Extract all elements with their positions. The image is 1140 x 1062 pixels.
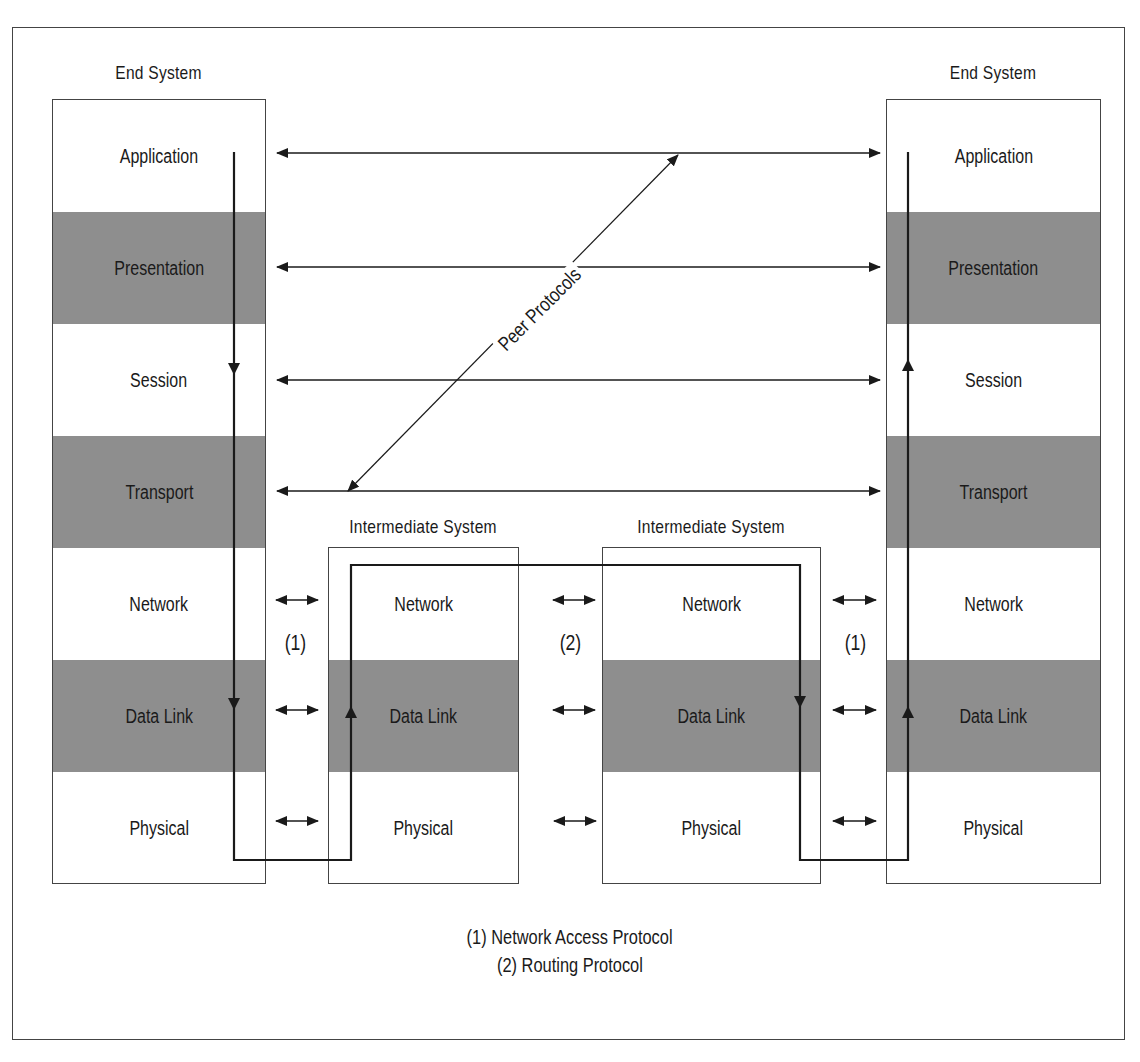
layer-label: Application: [120, 145, 198, 168]
link-marker-1-right: (1): [845, 630, 867, 656]
layer-label: Physical: [682, 817, 742, 840]
layer-label: Transport: [125, 481, 193, 504]
end-system-right-stack: Application Presentation Session Transpo…: [886, 99, 1101, 884]
layer-label: Physical: [129, 817, 189, 840]
legend: (1) Network Access Protocol: [0, 926, 1140, 949]
layer-label: Data Link: [960, 705, 1028, 728]
layer-label: Network: [394, 593, 453, 616]
layer-label: Network: [130, 593, 189, 616]
layer-label: Physical: [394, 817, 454, 840]
layer-label: Transport: [960, 481, 1028, 504]
intermediate-system-2-stack: Network Data Link Physical: [602, 547, 821, 884]
layer-network: Network: [53, 548, 265, 660]
end-system-right-title: End System: [905, 62, 1080, 84]
layer-label: Data Link: [678, 705, 746, 728]
layer-physical: Physical: [53, 772, 265, 884]
layer-session: Session: [887, 324, 1100, 436]
link-marker-1-left: (1): [285, 630, 307, 656]
layer-application: Application: [887, 100, 1100, 212]
layer-data-link: Data Link: [887, 660, 1100, 772]
layer-data-link: Data Link: [53, 660, 265, 772]
layer-presentation: Presentation: [53, 212, 265, 324]
legend-item-network-access: (1) Network Access Protocol: [467, 926, 673, 949]
layer-transport: Transport: [53, 436, 265, 548]
layer-network: Network: [329, 548, 518, 660]
layer-physical: Physical: [603, 772, 820, 884]
intermediate-system-1-title: Intermediate System: [337, 516, 509, 538]
layer-physical: Physical: [887, 772, 1100, 884]
layer-label: Physical: [964, 817, 1024, 840]
layer-label: Network: [682, 593, 741, 616]
layer-physical: Physical: [329, 772, 518, 884]
legend-item-routing: (2) Routing Protocol: [497, 954, 643, 977]
layer-transport: Transport: [887, 436, 1100, 548]
intermediate-system-2-title: Intermediate System: [613, 516, 808, 538]
end-system-left-stack: Application Presentation Session Transpo…: [52, 99, 266, 884]
layer-label: Data Link: [125, 705, 193, 728]
layer-label: Session: [965, 369, 1022, 392]
legend: (2) Routing Protocol: [0, 954, 1140, 977]
layer-label: Application: [954, 145, 1032, 168]
intermediate-system-1-stack: Network Data Link Physical: [328, 547, 519, 884]
layer-session: Session: [53, 324, 265, 436]
layer-network: Network: [887, 548, 1100, 660]
layer-label: Session: [131, 369, 188, 392]
layer-label: Presentation: [949, 257, 1039, 280]
layer-label: Data Link: [390, 705, 458, 728]
layer-data-link: Data Link: [603, 660, 820, 772]
layer-presentation: Presentation: [887, 212, 1100, 324]
layer-label: Network: [964, 593, 1023, 616]
end-system-left-title: End System: [71, 62, 246, 84]
link-marker-2: (2): [560, 630, 582, 656]
layer-network: Network: [603, 548, 820, 660]
layer-label: Presentation: [114, 257, 204, 280]
layer-application: Application: [53, 100, 265, 212]
layer-data-link: Data Link: [329, 660, 518, 772]
